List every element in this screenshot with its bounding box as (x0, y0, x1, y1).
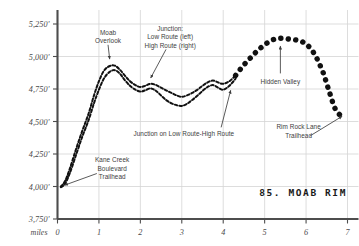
annotation-label: Kane CreekBoulevardTrailhead (95, 156, 130, 179)
annotation-label: Junction on Low Route-High Route (133, 130, 234, 138)
annotation-rim-rock-lane-trailhead: Rim Rock LaneTrailhead (276, 116, 342, 138)
annotation-junction-low-high: Junction:Low Route (left)High Route (rig… (145, 25, 196, 78)
y-tick-label: 4,000' (29, 183, 50, 192)
y-tick-label: 5,000' (29, 53, 50, 62)
y-tick-label: 3,750' (28, 215, 50, 224)
y-axis-tick-labels: 3,750'4,000'4,250'4,500'4,750'5,000'5,25… (28, 20, 50, 224)
annotation-label: Junction:Low Route (left)High Route (rig… (145, 25, 196, 49)
y-tick-label: 4,250' (29, 150, 50, 159)
x-tick-label: 5 (263, 228, 267, 237)
annotation-label: MoabOverlook (95, 29, 122, 44)
elevation-profile-chart: 3,750'4,000'4,250'4,500'4,750'5,000'5,25… (0, 0, 359, 246)
x-tick-label: 3 (179, 228, 184, 237)
x-axis-caption: miles (31, 228, 48, 237)
x-tick-label: 2 (138, 228, 142, 237)
x-tick-label: 1 (97, 228, 101, 237)
annotation-junction-on-low-route-high-route: Junction on Low Route-High Route (133, 90, 234, 138)
annotation-label: Hidden Valley (261, 78, 301, 86)
x-tick-label: 6 (304, 228, 309, 237)
route-line (61, 70, 236, 187)
y-tick-label: 4,750' (29, 85, 50, 94)
annotation-arrow (108, 45, 110, 59)
chart-canvas: 3,750'4,000'4,250'4,500'4,750'5,000'5,25… (0, 0, 359, 246)
x-tick-label: 4 (221, 228, 225, 237)
chart-title: 85. MOAB RIM (259, 187, 347, 198)
x-tick-label: 0 (55, 228, 59, 237)
annotation-label: Rim Rock LaneTrailhead (276, 123, 321, 138)
y-tick-label: 4,500' (29, 118, 50, 127)
annotation-hidden-valley: Hidden Valley (261, 46, 301, 86)
x-tick-label: 7 (345, 228, 350, 237)
y-tick-label: 5,250' (29, 20, 50, 29)
x-axis-tick-labels: 01234567 (55, 228, 350, 237)
annotation-arrow (151, 49, 166, 78)
annotations: MoabOverlookJunction:Low Route (left)Hig… (65, 25, 343, 185)
